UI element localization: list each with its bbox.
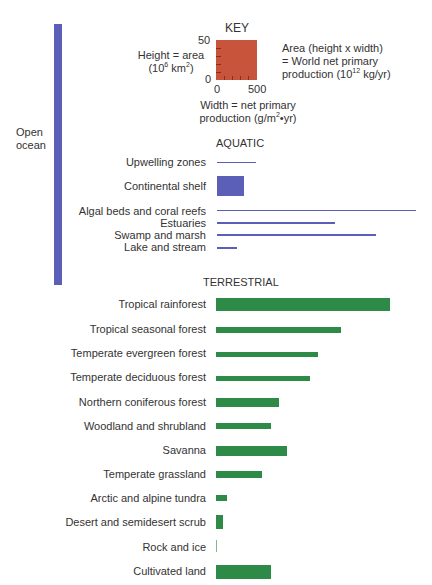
terrestrial-bar-rock-ice: [216, 540, 217, 552]
terrestrial-label-temperate-deciduous: Temperate deciduous forest: [70, 371, 206, 384]
terrestrial-label-savanna: Savanna: [163, 444, 206, 457]
terrestrial-label-arctic-tundra: Arctic and alpine tundra: [90, 492, 206, 505]
terrestrial-bar-woodland-shrubland: [216, 423, 271, 429]
terrestrial-bar-temperate-grassland: [216, 471, 262, 478]
terrestrial-label-northern-coniferous: Northern coniferous forest: [79, 396, 206, 409]
terrestrial-bar-temperate-evergreen: [216, 352, 318, 357]
aquatic-bar-swamp-marsh: [217, 234, 376, 236]
key-title: KEY: [225, 22, 249, 35]
aquatic-bar-algal-beds: [217, 210, 416, 211]
terrestrial-heading: TERRESTRIAL: [203, 276, 279, 288]
key-x-right-tick-label: 500: [248, 83, 266, 96]
aquatic-bar-upwelling: [217, 162, 256, 163]
terrestrial-bar-northern-coniferous: [216, 398, 279, 407]
open-ocean-label: Open ocean: [16, 126, 46, 152]
terrestrial-bar-arctic-tundra: [216, 495, 227, 501]
key-height-label: Height = area (106 km2): [132, 49, 210, 75]
terrestrial-label-woodland-shrubland: Woodland and shrubland: [84, 420, 206, 433]
aquatic-heading: AQUATIC: [216, 137, 264, 149]
terrestrial-label-tropical-rainforest: Tropical rainforest: [118, 298, 206, 311]
key-area-label: Area (height x width) = World net primar…: [282, 42, 391, 81]
terrestrial-label-tropical-seasonal: Tropical seasonal forest: [90, 323, 206, 336]
terrestrial-label-desert-scrub: Desert and semidesert scrub: [65, 516, 206, 529]
terrestrial-bar-temperate-deciduous: [216, 376, 310, 381]
key-y-top-tick-label: 50: [198, 34, 210, 47]
aquatic-bar-continental-shelf: [217, 176, 244, 196]
terrestrial-label-temperate-grassland: Temperate grassland: [103, 468, 206, 481]
aquatic-label-continental-shelf: Continental shelf: [124, 180, 206, 193]
terrestrial-bar-desert-scrub: [216, 515, 223, 529]
terrestrial-label-cultivated-land: Cultivated land: [133, 565, 206, 578]
aquatic-label-upwelling: Upwelling zones: [126, 156, 206, 169]
terrestrial-label-temperate-evergreen: Temperate evergreen forest: [71, 347, 206, 360]
aquatic-bar-lake-stream: [217, 247, 237, 249]
terrestrial-label-rock-ice: Rock and ice: [142, 541, 206, 554]
terrestrial-bar-cultivated-land: [216, 565, 271, 579]
key-width-label: Width = net primary production (g/m2•yr): [188, 99, 308, 125]
terrestrial-bar-tropical-rainforest: [216, 298, 390, 311]
terrestrial-bar-savanna: [216, 446, 287, 456]
open-ocean-bar: [54, 24, 62, 285]
terrestrial-bar-tropical-seasonal: [216, 327, 341, 333]
aquatic-label-lake-stream: Lake and stream: [124, 241, 206, 254]
aquatic-bar-estuaries: [217, 222, 335, 224]
key-x-left-tick-label: 0: [214, 83, 220, 96]
key-rectangle: [216, 40, 257, 80]
